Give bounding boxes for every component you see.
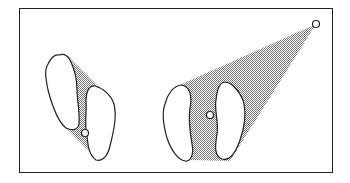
- left-center-point: [82, 130, 89, 137]
- far-point: [313, 21, 320, 28]
- right-center-point: [207, 112, 214, 119]
- stance-diagram: [0, 0, 350, 183]
